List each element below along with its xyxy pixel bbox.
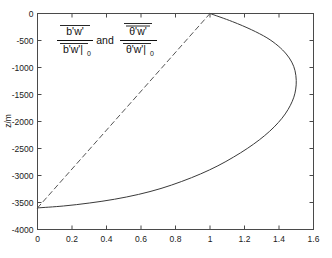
x-tick-label: 1.6	[308, 234, 320, 244]
x-tick-label: 1.2	[239, 234, 251, 244]
denominator-2-subscript: 0	[150, 50, 154, 57]
y-tick-label: 0	[29, 9, 34, 19]
x-tick-label: 0.4	[101, 234, 113, 244]
plot-canvas: 0-500-1000-1500-2000-2500-3000-3500-4000…	[0, 0, 332, 258]
x-tick-label: 1.4	[273, 234, 285, 244]
y-tick-label: -500	[16, 36, 33, 46]
x-tick-label: 0.6	[135, 234, 147, 244]
y-tick-label: -1500	[12, 90, 34, 100]
y-axis-label: z/m	[3, 114, 13, 128]
x-tick-label: 0	[35, 234, 40, 244]
numerator-2: θ'w'	[129, 25, 146, 37]
y-tick-label: -3000	[12, 171, 34, 181]
conjunction-and: and	[96, 34, 114, 46]
denominator-1: b'w'|	[63, 43, 83, 55]
y-tick-label: -1000	[12, 63, 34, 73]
numerator-1: b'w'	[66, 25, 83, 37]
y-tick-label: -3500	[12, 198, 34, 208]
y-tick-label: -4000	[12, 225, 34, 235]
y-tick-label: -2000	[12, 117, 34, 127]
x-axis-tick-labels: 00.20.40.60.811.21.41.6	[35, 234, 320, 244]
chart-figure: 0-500-1000-1500-2000-2500-3000-3500-4000…	[0, 0, 332, 258]
x-tick-label: 0.2	[66, 234, 78, 244]
x-tick-label: 0.8	[170, 234, 182, 244]
y-tick-label: -2500	[12, 144, 34, 154]
x-tick-label: 1	[208, 234, 213, 244]
denominator-2: θ'w'|	[126, 43, 146, 55]
denominator-1-subscript: 0	[87, 50, 91, 57]
figure-background	[0, 0, 332, 258]
